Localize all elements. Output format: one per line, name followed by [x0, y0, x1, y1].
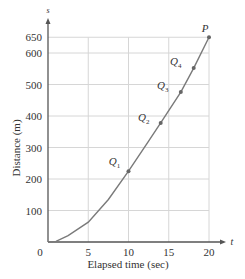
y-tick-label: 300: [26, 142, 43, 154]
point-label: Q1: [109, 155, 121, 170]
x-axis-arrow-icon: [220, 240, 226, 245]
x-tick-label: 5: [86, 246, 92, 258]
y-tick-label: 200: [26, 173, 43, 185]
data-point-q2: [159, 121, 163, 125]
x-axis-label: Elapsed time (sec): [87, 258, 169, 271]
y-tick-label: 600: [26, 47, 43, 59]
y-axis-label: Distance (m): [10, 119, 23, 176]
point-label: Q4: [170, 55, 182, 70]
x-tick-label: 20: [204, 246, 216, 258]
y-axis-arrow-icon: [46, 18, 51, 24]
point-label: P: [201, 22, 209, 34]
x-tick-label: 10: [123, 246, 135, 258]
distance-time-chart: 10020030040050060065005101520stElapsed t…: [0, 0, 245, 279]
y-tick-label: 400: [26, 110, 43, 122]
x-tick-label: 0: [37, 246, 43, 258]
point-label: Q2: [138, 111, 150, 126]
y-axis-symbol: s: [46, 6, 49, 15]
data-point-q1: [127, 169, 131, 173]
data-point-q4: [192, 66, 196, 70]
data-point-q3: [179, 90, 183, 94]
y-tick-label: 100: [26, 205, 43, 217]
point-label: Q3: [157, 79, 169, 94]
x-axis-symbol: t: [231, 236, 234, 247]
y-tick-label: 500: [26, 79, 43, 91]
data-point-p: [207, 35, 211, 39]
y-tick-label: 650: [26, 31, 43, 43]
x-tick-label: 15: [163, 246, 175, 258]
